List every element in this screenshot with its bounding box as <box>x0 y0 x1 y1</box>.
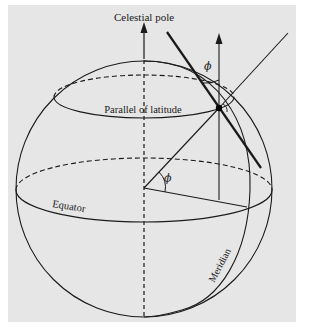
latitude-angle-label-center: ϕ <box>164 172 172 185</box>
observer-point <box>216 105 222 111</box>
celestial-sphere-diagram: Celestial pole Parallel of latitude Equa… <box>0 0 309 329</box>
parallel-of-latitude-label: Parallel of latitude <box>104 104 182 115</box>
figure-background <box>8 5 296 322</box>
celestial-pole-label: Celestial pole <box>114 11 174 23</box>
latitude-angle-label-top: ϕ <box>204 60 212 73</box>
